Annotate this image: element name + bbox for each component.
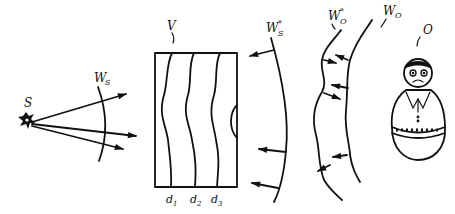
object-label-tick <box>381 19 386 27</box>
svg-text:*: * <box>278 19 282 28</box>
svg-text:O: O <box>423 23 433 37</box>
svg-text:1: 1 <box>173 200 177 208</box>
layer-label-d2: d 2 <box>190 193 202 208</box>
source-wavefront-arc <box>98 87 105 161</box>
svg-text:O: O <box>340 17 347 26</box>
svg-text:d: d <box>166 193 173 206</box>
source-label: S <box>24 96 32 110</box>
conj-object-wavefront-label: W * O <box>328 7 347 26</box>
interference-layers <box>162 53 237 187</box>
svg-text:d: d <box>190 193 197 206</box>
svg-text:V: V <box>167 19 177 33</box>
layer-label-d1: d 1 <box>166 193 177 208</box>
svg-text:O: O <box>395 11 402 20</box>
svg-text:*: * <box>340 7 344 16</box>
object-doll-icon <box>392 59 445 160</box>
conj-source-wavefront-arrows <box>250 50 286 188</box>
svg-text:3: 3 <box>218 200 223 208</box>
source-wavefront-label: W S <box>94 71 111 87</box>
svg-text:S: S <box>105 78 111 87</box>
svg-text:d: d <box>211 193 218 206</box>
object-wavefront-label: W O <box>383 4 402 20</box>
source-rays <box>32 94 136 149</box>
svg-text:2: 2 <box>196 200 202 208</box>
conj-source-wavefront-label: W * S <box>266 19 284 38</box>
conj-source-wavefront <box>271 38 287 202</box>
object-wavefront-right <box>346 20 372 182</box>
volume-label: V <box>167 19 177 43</box>
svg-text:S: S <box>278 29 284 38</box>
conj-object-label-tick <box>332 24 335 29</box>
diagram-canvas: S W S V d 1 d 2 d 3 W * S <box>0 0 455 214</box>
layer-label-d3: d 3 <box>211 193 223 208</box>
object-label: O <box>417 23 433 46</box>
